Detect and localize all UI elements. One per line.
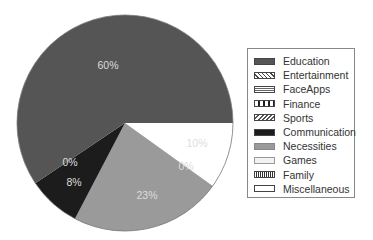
legend-item-entertainment: Entertainment — [254, 68, 354, 82]
legend-item-sports: Sports — [254, 111, 354, 125]
swatch-sports-icon — [254, 114, 275, 121]
legend-label: Entertainment — [283, 69, 348, 81]
swatch-miscellaneous-icon — [254, 185, 275, 192]
legend-label: Finance — [283, 98, 320, 110]
percent-label: 10% — [186, 137, 207, 149]
legend-item-games: Games — [254, 153, 354, 167]
swatch-games-icon — [254, 157, 275, 164]
legend-label: Miscellaneous — [283, 183, 350, 195]
legend-item-family: Family — [254, 168, 354, 182]
legend-label: Family — [283, 169, 314, 181]
swatch-family-icon — [254, 171, 275, 178]
percent-label: 8% — [66, 176, 81, 188]
legend-label: Education — [283, 55, 330, 67]
swatch-entertainment-icon — [254, 72, 275, 79]
percent-label: 0% — [62, 156, 77, 168]
chart-legend: Education Entertainment FaceApps Finance… — [247, 48, 355, 198]
swatch-communication-icon — [254, 129, 275, 136]
legend-item-finance: Finance — [254, 97, 354, 111]
percent-label: 23% — [136, 189, 157, 201]
legend-item-education: Education — [254, 54, 354, 68]
legend-label: Necessities — [283, 140, 337, 152]
legend-label: Games — [283, 154, 317, 166]
swatch-education-icon — [254, 58, 275, 65]
percent-label: 60% — [97, 59, 118, 71]
legend-label: Sports — [283, 112, 313, 124]
percent-label: 0% — [178, 160, 193, 172]
pie-chart: 60%10%0%23%0%8% — [0, 0, 240, 240]
swatch-finance-icon — [254, 100, 275, 107]
legend-item-miscellaneous: Miscellaneous — [254, 182, 354, 196]
legend-label: FaceApps — [283, 83, 330, 95]
swatch-necessities-icon — [254, 143, 275, 150]
legend-label: Communication — [283, 126, 356, 138]
pie-slices — [17, 15, 233, 231]
legend-item-necessities: Necessities — [254, 139, 354, 153]
swatch-faceapps-icon — [254, 86, 275, 93]
legend-item-communication: Communication — [254, 125, 354, 139]
legend-item-faceapps: FaceApps — [254, 82, 354, 96]
